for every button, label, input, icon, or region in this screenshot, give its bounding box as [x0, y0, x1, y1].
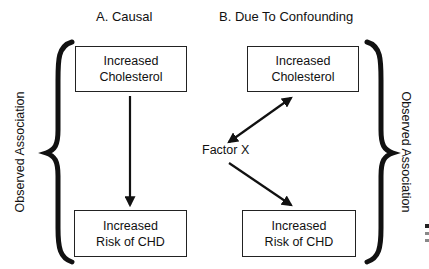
- box-line: Increased: [99, 53, 162, 69]
- left-observed-association-label: Observed Association: [13, 92, 27, 213]
- right-observed-association-label: Observed Association: [399, 92, 413, 213]
- left-brace-icon: [46, 42, 72, 262]
- factor-x-label: Factor X: [202, 143, 249, 157]
- panel-b-chd-box: Increased Risk of CHD: [242, 210, 356, 257]
- box-line: Cholesterol: [99, 69, 162, 85]
- panel-a-title: A. Causal: [96, 9, 152, 24]
- confounder-chd-arrow-icon: [229, 163, 291, 205]
- box-line: Risk of CHD: [96, 234, 165, 250]
- box-line: Cholesterol: [271, 69, 334, 85]
- confounder-cholesterol-arrow-icon: [229, 98, 291, 142]
- cropped-edge-text: [425, 224, 429, 254]
- panel-a-cholesterol-box: Increased Cholesterol: [75, 46, 187, 92]
- box-line: Increased: [96, 218, 165, 234]
- box-line: Risk of CHD: [265, 234, 334, 250]
- diagram-graphics: [0, 0, 429, 269]
- right-brace-icon: [367, 42, 393, 262]
- box-line: Increased: [271, 53, 334, 69]
- panel-a-chd-box: Increased Risk of CHD: [74, 210, 187, 257]
- panel-b-cholesterol-box: Increased Cholesterol: [247, 46, 359, 92]
- box-line: Increased: [265, 218, 334, 234]
- panel-b-title: B. Due To Confounding: [219, 9, 353, 24]
